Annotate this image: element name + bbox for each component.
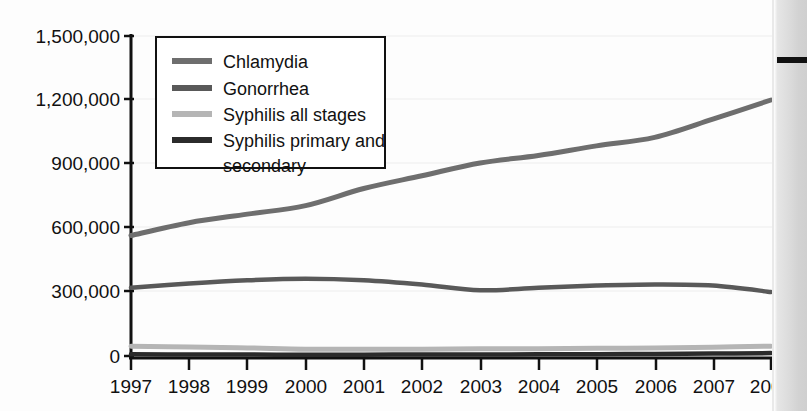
x-tick-label: 2000 bbox=[285, 376, 327, 397]
legend-label-continued: secondary bbox=[223, 156, 306, 176]
series-line-syphilis-all-stages bbox=[131, 346, 771, 349]
y-tick-label: 600,000 bbox=[51, 217, 120, 238]
y-axis-tick-labels: 1,500,000 1,200,000 900,000 600,000 300,… bbox=[35, 26, 120, 367]
line-chart: 1,500,000 1,200,000 900,000 600,000 300,… bbox=[0, 0, 807, 411]
x-axis-ticks bbox=[131, 358, 771, 370]
y-tick-label: 1,500,000 bbox=[35, 26, 120, 47]
x-tick-label: 2006 bbox=[635, 376, 677, 397]
x-tick-label: 1999 bbox=[226, 376, 268, 397]
y-tick-label: 1,200,000 bbox=[35, 89, 120, 110]
y-tick-label: 300,000 bbox=[51, 281, 120, 302]
chart-figure: 1,500,000 1,200,000 900,000 600,000 300,… bbox=[0, 0, 807, 411]
x-axis-tick-labels: 1997 1998 1999 2000 2001 2002 2003 2004 … bbox=[110, 376, 792, 397]
series-line-syphilis-primary-and-secondary bbox=[131, 353, 771, 355]
y-tick-label: 900,000 bbox=[51, 153, 120, 174]
legend-label: Gonorrhea bbox=[223, 79, 310, 99]
chart-legend: Chlamydia Gonorrhea Syphilis all stages … bbox=[156, 37, 385, 176]
legend-label: Chlamydia bbox=[223, 52, 309, 72]
x-tick-label: 2002 bbox=[401, 376, 443, 397]
x-tick-label: 2001 bbox=[343, 376, 385, 397]
x-tick-label: 2007 bbox=[693, 376, 735, 397]
x-tick-label: 2005 bbox=[576, 376, 618, 397]
legend-label: Syphilis primary and bbox=[223, 131, 385, 151]
x-tick-label: 2003 bbox=[460, 376, 502, 397]
legend-label: Syphilis all stages bbox=[223, 105, 366, 125]
x-tick-label: 2004 bbox=[518, 376, 561, 397]
series-line-gonorrhea bbox=[131, 279, 771, 292]
scan-artifact-mark bbox=[777, 57, 807, 63]
x-tick-label: 1998 bbox=[168, 376, 210, 397]
page-scan-edge bbox=[774, 0, 807, 411]
x-tick-label: 1997 bbox=[110, 376, 152, 397]
y-tick-label: 0 bbox=[109, 346, 120, 367]
